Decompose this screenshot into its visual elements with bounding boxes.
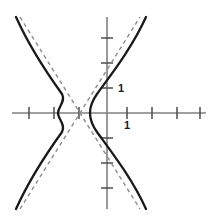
plot-canvas	[0, 0, 216, 221]
x-axis-unit-label: 1	[124, 120, 130, 131]
y-axis-unit-label: 1	[118, 83, 124, 94]
hyperbola-figure: 1 1	[0, 0, 216, 221]
